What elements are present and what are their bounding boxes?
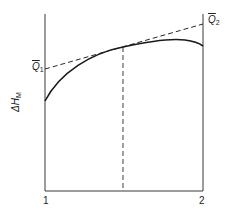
enthalpy-of-mixing-diagram bbox=[0, 0, 226, 215]
q1-subscript: 1 bbox=[40, 66, 44, 73]
delta-h-curve bbox=[45, 39, 203, 101]
q1-label: Q1 bbox=[32, 62, 44, 73]
q1-letter: Q bbox=[32, 61, 40, 72]
q2-letter: Q bbox=[208, 14, 216, 25]
q2-label: Q2 bbox=[208, 15, 220, 26]
x-tick-1: 1 bbox=[43, 196, 49, 206]
y-axis-label-subscript: M bbox=[15, 92, 22, 98]
y-axis-label-text: ΔH bbox=[10, 98, 21, 112]
x-tick-2: 2 bbox=[199, 196, 205, 206]
q2-subscript: 2 bbox=[216, 19, 220, 26]
y-axis-label: ΔHM bbox=[10, 92, 22, 112]
